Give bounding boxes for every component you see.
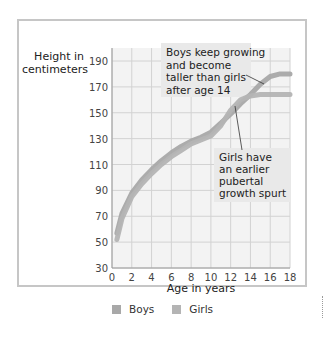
annotation-girls-line: pubertal (219, 175, 263, 187)
legend-swatch-girls (172, 305, 181, 314)
y-tick-label: 30 (95, 263, 108, 274)
y-tick-label: 170 (89, 82, 108, 93)
annotation-girls-line: growth spurt (219, 187, 286, 199)
annotation-girls-line: Girls have (219, 151, 272, 163)
y-tick-label: 90 (95, 185, 108, 196)
y-tick-label: 190 (89, 56, 108, 67)
annotation-boys-line: after age 14 (166, 84, 231, 96)
y-tick-label: 150 (89, 108, 108, 119)
legend-item-boys: Boys (112, 303, 154, 315)
legend-swatch-boys (112, 305, 121, 314)
y-tick-label: 70 (95, 211, 108, 222)
y-tick-label: 110 (89, 160, 108, 171)
annotation-boys-line: and become (166, 59, 231, 71)
annotation-boys-line: taller than girls (166, 71, 246, 83)
legend-item-girls: Girls (172, 303, 213, 315)
legend: Boys Girls (112, 303, 213, 315)
legend-label-girls: Girls (189, 303, 213, 315)
x-axis-label: Age in years (112, 282, 290, 295)
y-axis-ticks: 30507090110130150170190 (89, 56, 108, 274)
y-tick-label: 50 (95, 237, 108, 248)
annotation-girls-line: an earlier (219, 163, 270, 175)
y-tick-label: 130 (89, 134, 108, 145)
annotation-boys-line: Boys keep growing (166, 46, 265, 58)
legend-label-boys: Boys (129, 303, 154, 315)
